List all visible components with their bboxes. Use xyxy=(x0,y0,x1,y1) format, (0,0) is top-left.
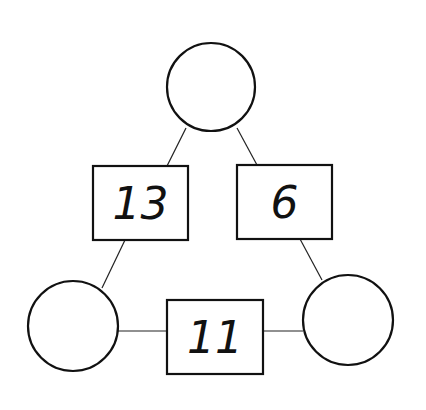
circle-top xyxy=(167,43,255,131)
circle-bottom-left xyxy=(28,281,118,371)
connector-top-left xyxy=(167,128,186,166)
connector-left-bottomleft xyxy=(102,240,125,288)
box-left-value: 13 xyxy=(93,166,188,240)
connector-right-bottomright xyxy=(300,239,322,280)
circle-bottom-right xyxy=(303,275,393,365)
box-right-value: 6 xyxy=(237,165,332,239)
box-bottom-value: 11 xyxy=(167,300,263,374)
connector-top-right xyxy=(237,128,257,165)
